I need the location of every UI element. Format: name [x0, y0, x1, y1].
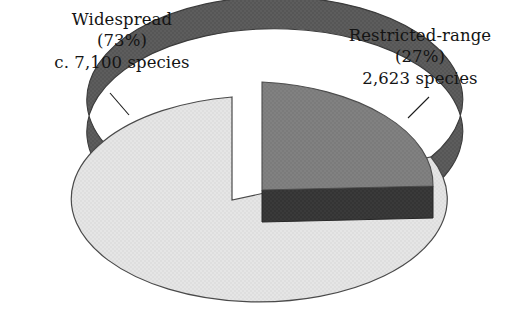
leader-line-widespread	[110, 93, 129, 115]
label-widespread-percent: (73%)	[18, 30, 226, 51]
label-restricted-percent: (27%)	[316, 46, 524, 67]
label-widespread-count: c. 7,100 species	[18, 52, 226, 73]
label-restricted: Restricted-range (27%) 2,623 species	[316, 25, 524, 89]
label-widespread: Widespread (73%) c. 7,100 species	[18, 9, 226, 73]
pie-slice-restricted-top	[262, 82, 433, 190]
label-restricted-count: 2,623 species	[316, 68, 524, 89]
pie-chart-figure: Widespread (73%) c. 7,100 species Restri…	[0, 0, 530, 333]
leader-line-restricted	[408, 97, 429, 118]
label-widespread-name: Widespread	[18, 9, 226, 30]
label-restricted-name: Restricted-range	[316, 25, 524, 46]
pie-slice-restricted	[262, 82, 433, 222]
pie-slice-restricted-side	[262, 186, 433, 222]
